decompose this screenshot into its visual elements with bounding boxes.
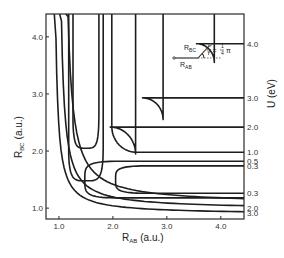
contour-level-0-5-loop-top [69, 9, 104, 180]
y-tick-label: 2.0 [32, 147, 44, 156]
contour-label: 1.0 [247, 148, 259, 157]
inset-angle-frac-den: 4 [221, 50, 224, 56]
x-tick-label: 1.0 [53, 222, 65, 231]
inset-angle-arc [202, 54, 204, 58]
x-axis-label: RAB(a.u.) [122, 232, 164, 244]
contour-level-0-3-loop-right [116, 166, 247, 193]
contour-label: 0.3 [247, 189, 259, 198]
y-tick-label: 1.0 [32, 204, 44, 213]
inset-angle-pi: π [226, 47, 231, 54]
contour-level-2 [59, 11, 247, 208]
x-tick-label: 4.0 [215, 222, 227, 231]
y-tick-label: 3.0 [32, 90, 44, 99]
inset-atom-a [173, 57, 175, 59]
y-axis-label: RBC(a.u.) [13, 116, 25, 158]
contour-label: 2.0 [247, 123, 259, 132]
x-tick-label: 3.0 [161, 222, 173, 231]
y-tick-label: 4.0 [32, 33, 44, 42]
inset-angle-frac-num: 1 [221, 43, 224, 49]
inset-label-rbc: RBC [184, 44, 196, 53]
contour-lines [54, 9, 247, 213]
contour-level-0-3-loop-top [73, 9, 99, 148]
contour-level-labels: 4.03.02.01.00.50.30.32.03.0 [247, 40, 259, 219]
geometry-inset: RBC RAB γ = 1 4 π [173, 43, 231, 70]
contour-label: 4.0 [247, 40, 259, 49]
contour-level-3 [143, 11, 247, 120]
x-axis-ticks: 1.02.03.04.0 [53, 216, 227, 231]
inset-atom-c [209, 44, 211, 46]
potential-energy-contour-plot: 1.02.03.04.0 1.02.03.04.0 4.03.02.01.00.… [0, 0, 284, 258]
inset-label-rab: RAB [180, 61, 192, 70]
contour-label: 0.3 [247, 162, 259, 171]
contour-level-0-5-loop-right [85, 161, 247, 198]
z-axis-label: U (eV) [266, 79, 277, 108]
contour-label: 3.0 [247, 209, 259, 218]
inset-angle-label: γ = [207, 47, 217, 55]
contour-level-1-0-outer [112, 11, 247, 152]
contour-label: 3.0 [247, 94, 259, 103]
contour-level-2 [110, 11, 247, 154]
contour-level-1-0-inner [64, 11, 247, 203]
x-tick-label: 2.0 [107, 222, 119, 231]
